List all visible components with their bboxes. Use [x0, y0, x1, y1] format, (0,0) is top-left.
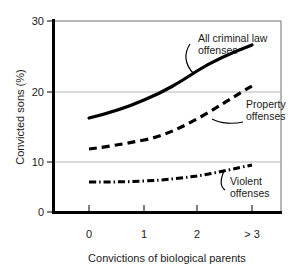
annotation-all-criminal-law-line2: offenses — [198, 44, 238, 56]
x-axis-title: Convictions of biological parents — [88, 252, 246, 264]
annotation-all-criminal-law-line1: All criminal law — [198, 32, 268, 44]
y-axis-title: Convicted sons (%) — [14, 69, 26, 164]
x-tick-label-3plus: > 3 — [244, 228, 260, 240]
y-tick-label-0: 0 — [38, 206, 44, 218]
annotation-property-line2: offenses — [246, 110, 286, 122]
annotation-property-line1: Property — [246, 98, 286, 110]
y-tick-label-10: 10 — [32, 156, 44, 168]
annotation-violent-line2: offenses — [230, 187, 270, 199]
x-tick-label-1: 1 — [141, 228, 147, 240]
chart-figure: 30 20 10 0 0 1 2 > 3 Convictions of biol… — [0, 0, 304, 276]
y-tick-label-20: 20 — [32, 86, 44, 98]
convicted-sons-line-chart: 30 20 10 0 0 1 2 > 3 Convictions of biol… — [0, 0, 304, 276]
y-tick-label-30: 30 — [32, 15, 44, 27]
annotation-violent-line1: Violent — [230, 175, 262, 187]
x-tick-label-0: 0 — [86, 228, 92, 240]
x-tick-label-2: 2 — [194, 228, 200, 240]
